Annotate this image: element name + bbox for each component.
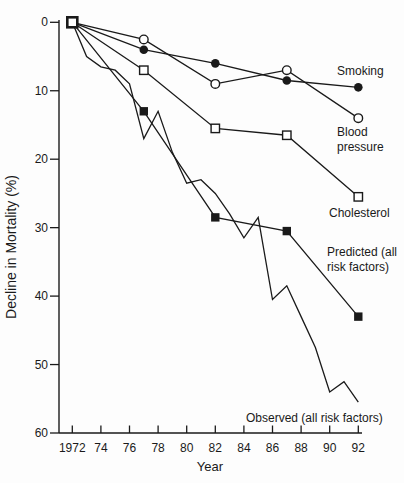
marker-open-square-cholesterol [211, 124, 219, 132]
series-label-predicted-all-risk-factors: Predicted (all [327, 245, 397, 259]
marker-filled-circle-smoking [283, 76, 292, 85]
x-tick-label: 80 [180, 441, 194, 455]
y-tick-label: 0 [41, 15, 48, 29]
series-group [67, 17, 362, 402]
y-tick-label: 20 [35, 152, 49, 166]
origin-marker [67, 17, 77, 27]
y-tick-label: 60 [35, 426, 49, 440]
y-tick-label: 40 [35, 289, 49, 303]
x-tick-label: 92 [352, 441, 366, 455]
marker-open-circle-blood-pressure [211, 80, 220, 89]
series-label-cholesterol: Cholesterol [329, 206, 390, 220]
x-tick-label: 76 [123, 441, 137, 455]
x-axis-title: Year [197, 459, 224, 474]
series-labels-group: SmokingBloodpressureCholesterolPredicted… [246, 64, 397, 425]
x-tick-label: 82 [209, 441, 223, 455]
x-tick-label: 78 [151, 441, 165, 455]
marker-filled-square-predicted-all-risk-factors [211, 213, 219, 221]
y-tick-label: 30 [35, 221, 49, 235]
series-label-blood-pressure: pressure [337, 140, 384, 154]
x-tick-label: 84 [237, 441, 251, 455]
x-tick-label: 1972 [59, 441, 86, 455]
x-tick-label: 86 [266, 441, 280, 455]
series-label-blood-pressure: Blood [337, 125, 368, 139]
x-tick-label: 74 [94, 441, 108, 455]
marker-filled-square-predicted-all-risk-factors [283, 227, 291, 235]
series-line-cholesterol [72, 22, 358, 197]
marker-open-square-cholesterol [140, 66, 148, 74]
x-tick-label: 90 [323, 441, 337, 455]
marker-open-square-cholesterol [354, 193, 362, 201]
marker-open-circle-blood-pressure [140, 35, 149, 44]
mortality-decline-figure: 0102030405060197274767880828486889092 Sm… [0, 0, 404, 483]
y-tick-label: 50 [35, 358, 49, 372]
marker-filled-circle-smoking [211, 59, 220, 68]
y-tick-label: 10 [35, 84, 49, 98]
marker-filled-circle-smoking [140, 45, 149, 54]
series-label-predicted-all-risk-factors: risk factors) [327, 260, 389, 274]
marker-open-square-cholesterol [283, 131, 291, 139]
marker-filled-square-predicted-all-risk-factors [140, 107, 148, 115]
series-label-observed-all-risk-factors: Observed (all risk factors) [246, 411, 383, 425]
x-tick-label: 88 [294, 441, 308, 455]
series-label-smoking: Smoking [337, 64, 384, 78]
marker-filled-square-predicted-all-risk-factors [354, 312, 362, 320]
marker-open-circle-blood-pressure [354, 114, 363, 123]
y-axis-title: Decline in Mortality (%) [3, 175, 19, 319]
marker-filled-circle-smoking [354, 83, 363, 92]
chart-svg: 0102030405060197274767880828486889092 Sm… [0, 0, 404, 483]
marker-open-circle-blood-pressure [283, 66, 292, 75]
axes-group: 0102030405060197274767880828486889092 [35, 15, 366, 455]
